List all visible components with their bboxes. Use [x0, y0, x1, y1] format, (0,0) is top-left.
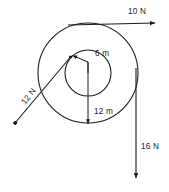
- force-diagram-canvas: 10 N 12 N 16 N 6 m 12 m: [0, 0, 169, 192]
- force-diagram-figure: 10 N 12 N 16 N 6 m 12 m: [0, 0, 169, 192]
- force-label-10n: 10 N: [128, 7, 146, 16]
- force-label-16n: 16 N: [141, 142, 159, 151]
- radius-label-6m: 6 m: [95, 49, 109, 58]
- force-label-12n: 12 N: [19, 86, 37, 106]
- radius-label-12m: 12 m: [94, 107, 113, 116]
- dimension-leader-6m: [73, 56, 89, 74]
- force-arrow-12n: [15, 57, 71, 123]
